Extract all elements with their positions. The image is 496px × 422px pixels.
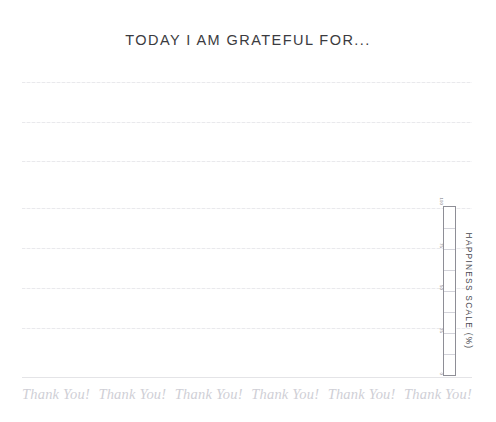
thank-you-text: Thank You! bbox=[404, 386, 472, 403]
journal-page: TODAY I AM GRATEFUL FOR... 1007550250 HA… bbox=[0, 0, 496, 422]
thank-you-text: Thank You! bbox=[328, 386, 396, 403]
thank-you-text: Thank You! bbox=[98, 386, 166, 403]
thermometer-segment-line bbox=[444, 270, 455, 271]
thermometer-segment-line bbox=[444, 291, 455, 292]
writing-line[interactable] bbox=[22, 208, 472, 209]
scale-tick-label: 100 bbox=[439, 198, 443, 206]
scale-caption-label: HAPPINESS SCALE (%) bbox=[464, 233, 474, 350]
thermometer-tube[interactable] bbox=[443, 206, 456, 376]
thermometer-segment-line bbox=[444, 354, 455, 355]
thank-you-text: Thank You! bbox=[251, 386, 319, 403]
thermometer-segment-line bbox=[444, 312, 455, 313]
writing-lines-group bbox=[0, 0, 496, 422]
thank-you-text: Thank You! bbox=[22, 386, 90, 403]
writing-line[interactable] bbox=[22, 82, 472, 83]
writing-line[interactable] bbox=[22, 377, 472, 378]
thank-you-text: Thank You! bbox=[175, 386, 243, 403]
thermometer-segment-line bbox=[444, 333, 455, 334]
thank-you-row: Thank You!Thank You!Thank You!Thank You!… bbox=[22, 386, 472, 403]
happiness-scale-widget[interactable]: 1007550250 HAPPINESS SCALE (%) bbox=[428, 200, 484, 382]
scale-caption: HAPPINESS SCALE (%) bbox=[458, 200, 480, 382]
thermometer-segment-line bbox=[444, 249, 455, 250]
writing-line[interactable] bbox=[22, 248, 472, 249]
scale-tick-labels: 1007550250 bbox=[428, 200, 442, 382]
writing-line[interactable] bbox=[22, 122, 472, 123]
writing-line[interactable] bbox=[22, 161, 472, 162]
writing-line[interactable] bbox=[22, 328, 472, 329]
thermometer-segment-line bbox=[444, 228, 455, 229]
writing-line[interactable] bbox=[22, 288, 472, 289]
